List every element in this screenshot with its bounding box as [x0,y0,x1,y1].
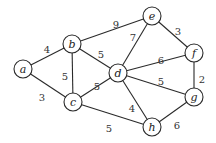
edge-weight-c-h: 5 [106,123,112,134]
edge-layer [23,16,194,127]
node-label: a [20,63,27,76]
edge-weight-b-d: 5 [98,49,104,60]
node-e: e [143,7,161,25]
node-g: g [185,88,203,106]
node-label: h [148,121,155,134]
node-label: b [68,38,75,51]
edge-weight-a-c: 3 [39,92,45,103]
edge-d-g [118,73,194,97]
edge-d-f [118,53,194,73]
edge-d-h [118,73,152,127]
edge-weight-d-e: 7 [130,32,136,43]
edge-d-e [118,16,152,73]
node-label: c [70,96,76,109]
edge-weight-d-g: 5 [158,76,164,87]
edge-weight-e-f: 3 [175,26,181,37]
node-c: c [64,93,82,111]
edge-weight-a-b: 4 [44,44,50,55]
edge-weight-c-d: 5 [94,81,100,92]
node-label: d [114,67,121,80]
node-b: b [63,35,81,53]
edge-weight-g-h: 6 [174,120,180,131]
node-label: g [190,91,197,104]
node-label: e [149,10,156,23]
node-a: a [14,60,32,78]
node-f: f [185,44,203,62]
edge-weight-b-c: 5 [62,71,68,82]
edge-weight-d-f: 6 [158,55,164,66]
node-h: h [143,118,161,136]
edge-weight-b-e: 9 [113,19,119,30]
edge-c-h [73,102,152,127]
edge-weight-f-g: 2 [199,74,205,85]
node-d: d [109,64,127,82]
graph-canvas: 43559557654326 abcdefgh [0,0,216,143]
edge-weight-d-h: 4 [129,103,135,114]
